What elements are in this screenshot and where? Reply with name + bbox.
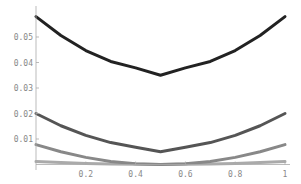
x-tick-label: 0.2	[79, 170, 94, 179]
y-tick-label: 0.01	[14, 135, 33, 144]
y-tick-label: 0.05	[14, 33, 33, 42]
chart-curves	[36, 17, 285, 165]
line-chart: 0.010.020.030.040.050.20.40.60.81	[0, 0, 301, 184]
y-tick-label: 0.04	[14, 59, 33, 68]
x-tick-label: 0.8	[228, 170, 243, 179]
curve-1-line	[36, 17, 285, 76]
x-tick-label: 1	[283, 170, 288, 179]
y-tick-label: 0.02	[14, 110, 33, 119]
curve-2-line	[36, 114, 285, 152]
x-tick-label: 0.4	[128, 170, 143, 179]
y-tick-label: 0.03	[14, 84, 33, 93]
x-tick-label: 0.6	[178, 170, 193, 179]
